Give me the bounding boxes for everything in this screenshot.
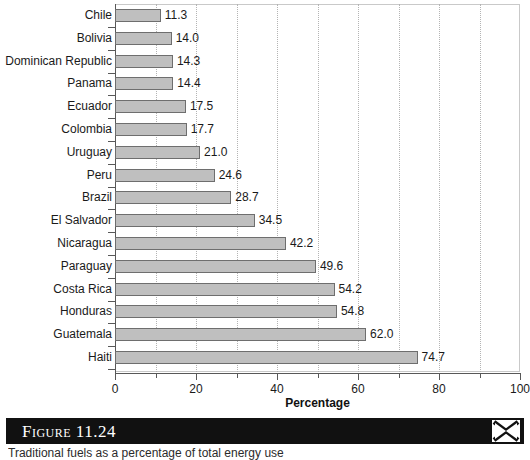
x-axis-tick-label: 20 <box>189 382 202 396</box>
bar-value-label: 49.6 <box>320 259 343 273</box>
bar <box>115 9 161 22</box>
x-axis-minor-tick <box>399 373 400 378</box>
bar-row: 24.6 <box>115 169 520 182</box>
y-axis-tick <box>108 50 116 51</box>
bar-chart: Chile11.3Bolivia14.0Dominican Republic14… <box>0 0 530 412</box>
bar <box>115 55 173 68</box>
x-axis-minor-tick <box>237 373 238 378</box>
bar-value-label: 21.0 <box>204 145 227 159</box>
category-label: Uruguay <box>67 146 112 159</box>
x-axis-minor-tick <box>156 373 157 378</box>
bar <box>115 305 337 318</box>
figure-number-label: Figure 11.24 <box>22 422 116 442</box>
bar <box>115 283 335 296</box>
category-label: Costa Rica <box>53 283 112 296</box>
y-axis-tick <box>108 301 116 302</box>
y-axis-tick <box>108 369 116 370</box>
bar-value-label: 28.7 <box>235 190 258 204</box>
bar <box>115 260 316 273</box>
bar-value-label: 14.3 <box>177 54 200 68</box>
bar-value-label: 54.2 <box>339 282 362 296</box>
category-label: Dominican Republic <box>5 55 112 68</box>
y-axis-tick <box>108 141 116 142</box>
category-label: Colombia <box>61 123 112 136</box>
x-axis-tick <box>115 373 116 380</box>
bar-value-label: 11.3 <box>165 8 187 22</box>
x-axis-title: Percentage <box>115 396 520 410</box>
y-axis-tick <box>108 27 116 28</box>
category-label: Chile <box>85 9 112 22</box>
y-axis-tick <box>108 232 116 233</box>
y-axis-tick <box>108 323 116 324</box>
bar-row: 49.6 <box>115 260 520 273</box>
x-axis-tick <box>520 373 521 380</box>
x-axis-minor-tick <box>318 373 319 378</box>
bar-row: 54.8 <box>115 305 520 318</box>
x-axis-tick-label: 0 <box>112 382 119 396</box>
x-brand-icon <box>492 420 520 442</box>
category-label: Ecuador <box>67 100 112 113</box>
category-label: Panama <box>67 77 112 90</box>
y-axis-tick <box>108 187 116 188</box>
x-axis-tick-label: 100 <box>510 382 530 396</box>
bar-row: 14.3 <box>115 55 520 68</box>
bar-row: 21.0 <box>115 146 520 159</box>
bar <box>115 146 200 159</box>
x-axis-tick-label: 80 <box>432 382 445 396</box>
bar <box>115 351 418 364</box>
y-axis-tick <box>108 95 116 96</box>
bar-value-label: 14.4 <box>177 76 200 90</box>
bar-value-label: 34.5 <box>259 213 282 227</box>
bar-value-label: 24.6 <box>219 168 242 182</box>
bar <box>115 169 215 182</box>
x-axis-tick <box>277 373 278 380</box>
x-axis-minor-tick <box>480 373 481 378</box>
figure-caption-bar: Figure 11.24 <box>6 418 524 444</box>
bar-row: 28.7 <box>115 191 520 204</box>
bar-value-label: 17.7 <box>191 122 214 136</box>
category-label: Guatemala <box>53 328 112 341</box>
y-axis-tick <box>108 278 116 279</box>
bar-row: 11.3 <box>115 9 520 22</box>
category-label: El Salvador <box>51 214 112 227</box>
bar-row: 34.5 <box>115 214 520 227</box>
bar-row: 62.0 <box>115 328 520 341</box>
y-axis-tick <box>108 209 116 210</box>
y-axis-tick <box>108 118 116 119</box>
y-axis-tick <box>108 164 116 165</box>
bar <box>115 328 366 341</box>
category-label: Peru <box>87 169 112 182</box>
category-label: Haiti <box>88 351 112 364</box>
x-axis-tick <box>358 373 359 380</box>
bar-row: 14.4 <box>115 77 520 90</box>
bar <box>115 77 173 90</box>
bar-value-label: 42.2 <box>290 236 313 250</box>
bar-value-label: 17.5 <box>190 99 213 113</box>
bar <box>115 100 186 113</box>
bar-row: 74.7 <box>115 351 520 364</box>
bar-value-label: 14.0 <box>176 31 199 45</box>
bar-row: 14.0 <box>115 32 520 45</box>
bar-row: 17.7 <box>115 123 520 136</box>
bar-value-label: 62.0 <box>370 327 393 341</box>
bar <box>115 123 187 136</box>
bar-value-label: 54.8 <box>341 304 364 318</box>
x-axis-tick <box>439 373 440 380</box>
bar <box>115 191 231 204</box>
y-axis-tick <box>108 346 116 347</box>
category-label: Honduras <box>60 305 112 318</box>
bar <box>115 237 286 250</box>
figure-caption-text: Traditional fuels as a percentage of tot… <box>8 446 522 460</box>
bar-value-label: 74.7 <box>422 350 445 364</box>
bar-row: 54.2 <box>115 283 520 296</box>
x-axis-tick-label: 40 <box>270 382 283 396</box>
bar-row: 17.5 <box>115 100 520 113</box>
y-axis-tick <box>108 255 116 256</box>
bar-row: 42.2 <box>115 237 520 250</box>
bar <box>115 214 255 227</box>
x-axis-tick <box>196 373 197 380</box>
bar <box>115 32 172 45</box>
category-label: Brazil <box>82 191 112 204</box>
category-label: Bolivia <box>77 32 112 45</box>
y-axis-tick <box>108 73 116 74</box>
